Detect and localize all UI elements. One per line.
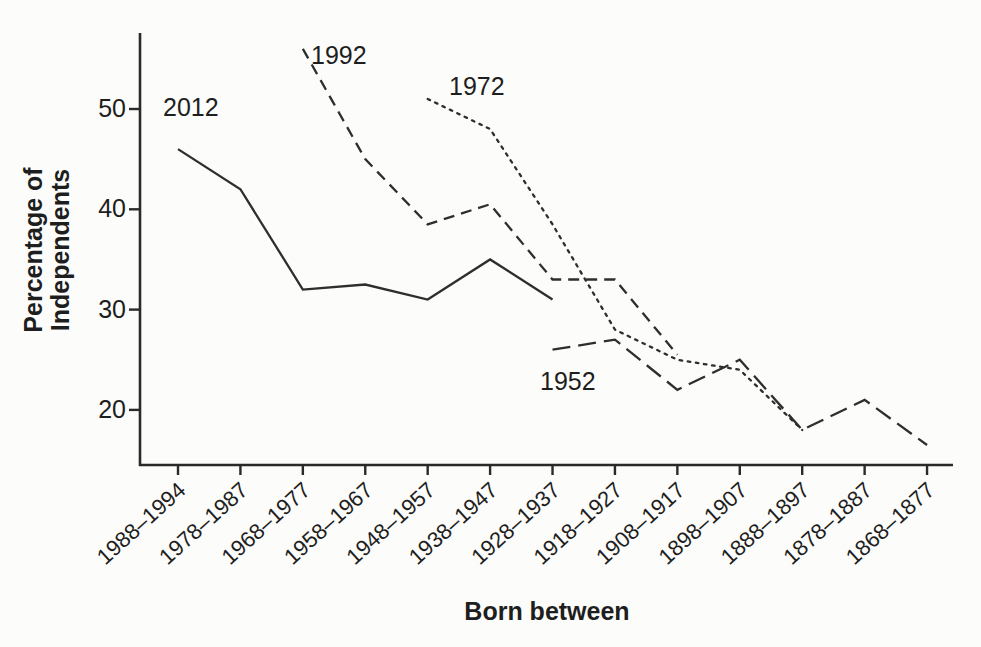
series-line-1952 (553, 340, 928, 445)
y-axis-title-line1: Percentage of (19, 167, 47, 333)
series-label-1952: 1952 (540, 367, 596, 395)
y-tick-label: 30 (98, 295, 126, 323)
series-label-1972: 1972 (449, 72, 505, 100)
y-tick-label: 40 (98, 194, 126, 222)
series-label-2012: 2012 (163, 93, 219, 121)
line-chart-figure: Percentage of Independents Born between … (0, 0, 981, 647)
chart-canvas: Percentage of Independents Born between … (0, 0, 981, 647)
y-tick-label: 50 (98, 94, 126, 122)
y-tick-label: 20 (98, 395, 126, 423)
x-axis-title: Born between (464, 597, 629, 625)
series-line-2012 (178, 149, 553, 299)
series-label-1992: 1992 (311, 41, 367, 69)
y-axis-title-line2: Independents (46, 169, 74, 332)
